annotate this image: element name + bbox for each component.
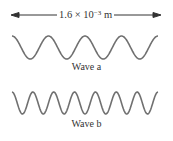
arrow-right-icon	[153, 13, 161, 18]
wave-b-curve	[12, 92, 158, 114]
arrow-left-icon	[11, 13, 19, 18]
wave-b-label: Wave b	[0, 119, 173, 129]
wave-a-curve	[12, 36, 158, 59]
wave-a-label: Wave a	[0, 62, 173, 72]
wavelength-span-label: 1.6 × 10−3 m	[57, 10, 114, 21]
